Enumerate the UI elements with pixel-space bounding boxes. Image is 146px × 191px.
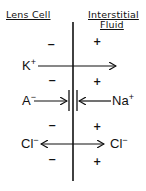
minus-sign: −: [47, 40, 55, 50]
cl-left-ion-label: Cl−: [21, 137, 39, 150]
minus-sign: −: [48, 76, 56, 86]
plus-sign: +: [93, 122, 101, 132]
plus-sign: +: [93, 157, 101, 167]
minus-sign: −: [48, 155, 56, 165]
plus-sign: +: [93, 37, 101, 47]
minus-sign: −: [48, 121, 56, 131]
na-ion-label: Na+: [112, 94, 134, 107]
cl-right-ion-label: Cl−: [110, 137, 128, 150]
plus-sign: +: [93, 77, 101, 87]
a-ion-label: A−: [22, 94, 36, 107]
k-ion-label: K+: [22, 59, 36, 72]
